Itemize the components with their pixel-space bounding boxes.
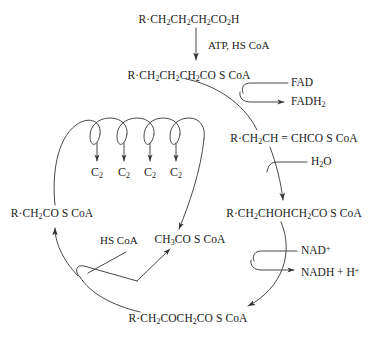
water-in-line (267, 162, 307, 172)
cycle-arc-ketoacyl-to-junction (80, 277, 140, 312)
acyl-coa-formula: R·CH2CH2CH2CO S CoA (128, 70, 251, 83)
nad-in-line (253, 251, 297, 261)
hs-coa-in-line (88, 252, 126, 273)
nadh-h-label: NADH + H+ (301, 267, 359, 279)
c2-unit-1: C2 (91, 166, 103, 180)
c2-unit-3: C2 (144, 166, 156, 180)
acetyl-coa-out-line (137, 249, 170, 281)
junction-hook (77, 266, 137, 281)
fad-label: FAD (291, 77, 313, 89)
spiral-outer-turn (54, 120, 100, 205)
ketoacyl-coa-formula: R·CH2COCH2CO S CoA (129, 313, 248, 326)
spiral-tail-to-acetyl (179, 139, 204, 229)
c2-unit-2: C2 (118, 166, 130, 180)
fadh2-label: FADH2 (291, 96, 325, 109)
cycle-arc-junction-to-acyl (55, 228, 78, 276)
fad-in-line (242, 83, 288, 93)
nad-plus-label: NAD+ (301, 245, 330, 257)
c2-unit-4: C2 (170, 166, 182, 180)
cycle-arc-acyl-to-enoyl (186, 79, 257, 130)
cycle-arc-enoyl-to-hydroxyacyl (270, 147, 283, 200)
cycle-arc-hydroxyacyl-to-ketoacyl (248, 222, 286, 306)
acetyl-coa-formula: CH3CO S CoA (155, 234, 226, 247)
hydroxyacyl-coa-formula: R·CH2CHOHCH2CO S CoA (226, 208, 362, 221)
nadh-out-line (251, 260, 294, 270)
enoyl-coa-formula: R·CH2CH = CHCO S CoA (230, 133, 357, 146)
beta-oxidation-diagram: R·CH2CH2CH2CO2H ATP, HS CoA R·CH2CH2CH2C… (0, 0, 379, 340)
water-label: H2O (311, 156, 332, 169)
fatty-acid-formula: R·CH2CH2CH2CO2H (139, 14, 240, 27)
shortened-acyl-coa-formula: R·CH2CO S CoA (11, 208, 94, 221)
fadh2-out-line (240, 92, 284, 102)
activation-step-label: ATP, HS CoA (208, 40, 269, 51)
diagram-vector-layer (0, 0, 379, 340)
hs-coa-label: HS CoA (100, 235, 138, 246)
